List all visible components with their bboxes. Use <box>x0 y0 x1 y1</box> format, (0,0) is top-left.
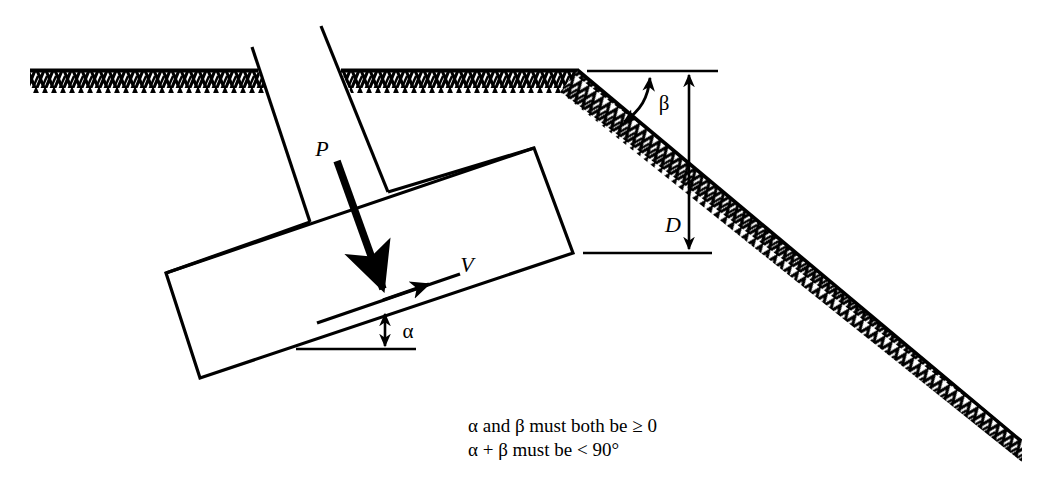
slope-face <box>550 60 1040 472</box>
soil-hatching-left <box>28 69 272 95</box>
soil-hatching-right <box>339 69 591 95</box>
ground-surface-left <box>28 69 272 95</box>
soil-hatching-slope <box>550 60 1040 472</box>
load-label-P: P <box>314 136 328 161</box>
shear-label-V: V <box>460 252 476 277</box>
beta-angle-group: β <box>624 78 669 122</box>
footing-top-right-edge <box>388 148 534 192</box>
footing-top-left-edge <box>166 222 310 273</box>
caption-line-1: α and β must both be ≥ 0 <box>468 415 657 436</box>
load-arrow-shaft <box>337 161 383 289</box>
alpha-label: α <box>402 319 413 343</box>
depth-label-D: D <box>664 212 681 237</box>
ground-surface-right <box>339 69 591 95</box>
shaft-walls <box>252 26 388 222</box>
caption-line-2: α + β must be < 90° <box>468 439 619 460</box>
slope-surface-line <box>578 71 1021 442</box>
engineering-diagram: P V α D β α <box>0 0 1046 492</box>
figure-canvas: P V α D β α <box>0 0 1046 492</box>
shaft-left-wall <box>252 47 310 222</box>
shaft-right-wall <box>321 26 388 192</box>
beta-label: β <box>659 91 670 115</box>
footing-block <box>166 148 573 378</box>
footing-block-outline <box>166 148 573 378</box>
alpha-angle-group: α <box>296 314 416 349</box>
shear-arrow <box>383 284 429 300</box>
caption-block: α and β must both be ≥ 0 α + β must be <… <box>468 415 657 460</box>
